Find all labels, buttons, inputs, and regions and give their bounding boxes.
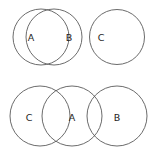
- top-row-label-b: B: [66, 32, 73, 43]
- venn-diagram-figure: A B C C A B: [0, 0, 156, 155]
- bottom-row-group: C A B: [10, 86, 147, 146]
- top-row-circle-b: [26, 9, 82, 65]
- top-row-group: A B C: [13, 9, 145, 65]
- bottom-row-circle-c: [10, 86, 70, 146]
- top-row-label-a: A: [28, 32, 35, 43]
- bottom-row-label-c: C: [26, 112, 33, 123]
- venn-diagram-canvas: A B C C A B: [0, 0, 156, 155]
- top-row-circle-a: [13, 9, 69, 65]
- bottom-row-label-b: B: [114, 112, 121, 123]
- top-row-label-c: C: [98, 32, 105, 43]
- bottom-row-label-a: A: [69, 112, 76, 123]
